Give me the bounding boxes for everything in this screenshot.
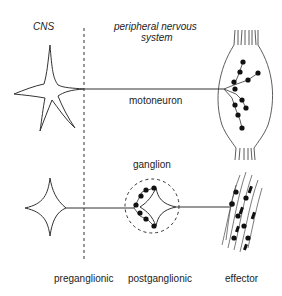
label-motoneuron: motoneuron [129, 95, 182, 106]
label-pns-line2: system [141, 32, 173, 43]
label-cns: CNS [33, 21, 54, 32]
preganglionic-cell-body [25, 178, 66, 236]
label-preganglionic: preganglionic [54, 273, 114, 284]
motoneuron-cell-body [14, 45, 84, 131]
label-effector: effector [225, 273, 259, 284]
neuron-diagram: CNS peripheral nervous system motoneuron… [0, 0, 282, 296]
ganglionic-synapses [133, 185, 156, 228]
skeletal-muscle [218, 30, 273, 160]
label-ganglion: ganglion [133, 159, 171, 170]
label-pns-line1: peripheral nervous [113, 21, 197, 32]
label-postganglionic: postganglionic [128, 273, 192, 284]
neuromuscular-terminals [231, 59, 260, 130]
